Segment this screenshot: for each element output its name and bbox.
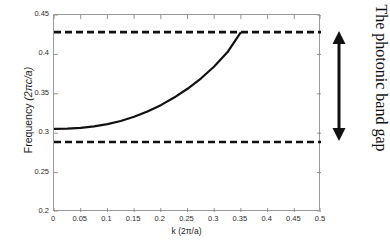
xtick-label: 0.45 xyxy=(286,215,301,223)
xtick-label: 0.35 xyxy=(233,215,248,223)
ytick-marks xyxy=(54,15,321,212)
ytick-label: 0.45 xyxy=(21,10,49,18)
xtick-label: 0.4 xyxy=(261,215,271,223)
ytick-label: 0.2 xyxy=(21,207,49,215)
xtick-label: 0.2 xyxy=(155,215,165,223)
plot-svg xyxy=(54,15,321,212)
y-axis-title-unit: (2πc/a) xyxy=(22,67,34,101)
y-axis-title-main: Frequency xyxy=(22,104,34,154)
x-axis-title: k (2π/a) xyxy=(53,226,320,236)
plot-area xyxy=(53,14,320,211)
xtick-label: 0.3 xyxy=(208,215,218,223)
xtick-label: 0.25 xyxy=(179,215,194,223)
band-gap-label: The photonic band gap xyxy=(372,0,390,173)
xtick-label: 0 xyxy=(51,215,55,223)
double-arrow-icon xyxy=(330,31,348,141)
y-axis-title: Frequency (2πc/a) xyxy=(22,20,34,200)
series-band xyxy=(54,32,241,129)
xtick-label: 0.15 xyxy=(126,215,141,223)
series-group xyxy=(54,32,321,142)
xtick-label: 0.1 xyxy=(101,215,111,223)
band-gap-annotation: The photonic band gap xyxy=(322,14,373,234)
xtick-marks xyxy=(54,15,321,212)
xtick-label: 0.05 xyxy=(72,215,87,223)
